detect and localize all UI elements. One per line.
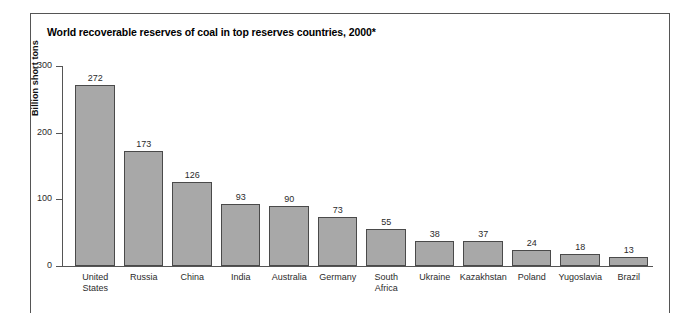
y-tick-label: 300: [37, 60, 52, 70]
bar-group: 90Australia: [265, 66, 314, 266]
bar-series: 272UnitedStates173Russia126China93India9…: [71, 66, 653, 266]
y-tick: 100: [56, 199, 62, 200]
bar-group: 126China: [168, 66, 217, 266]
bar-group: 13Brazil: [605, 66, 654, 266]
bar-value-label: 37: [459, 229, 508, 239]
y-tick: 300: [56, 66, 62, 67]
bar[interactable]: [415, 241, 455, 266]
bar-value-label: 126: [168, 170, 217, 180]
bar-value-label: 73: [314, 205, 363, 215]
bar-group: 55SouthAfrica: [362, 66, 411, 266]
x-axis-category-label-line: States: [67, 283, 124, 294]
y-axis-line: [62, 66, 63, 266]
bar[interactable]: [124, 151, 164, 266]
y-tick-mark: [56, 133, 62, 134]
y-tick-label: 100: [37, 193, 52, 203]
y-tick-mark: [56, 66, 62, 67]
x-axis-category-label: Brazil: [601, 272, 658, 283]
bar-value-label: 13: [605, 245, 654, 255]
bar-value-label: 38: [411, 229, 460, 239]
bar-value-label: 55: [362, 217, 411, 227]
bar-group: 18Yugoslavia: [556, 66, 605, 266]
bar[interactable]: [75, 85, 115, 266]
bar-value-label: 90: [265, 194, 314, 204]
bar-value-label: 93: [217, 192, 266, 202]
bar[interactable]: [609, 257, 649, 266]
bar[interactable]: [221, 204, 261, 266]
bar-value-label: 173: [120, 139, 169, 149]
y-tick-label: 200: [37, 127, 52, 137]
chart-title: World recoverable reserves of coal in to…: [47, 26, 376, 38]
bar-value-label: 272: [71, 73, 120, 83]
bar-group: 24Poland: [508, 66, 557, 266]
bar[interactable]: [318, 217, 358, 266]
x-axis-line: [62, 266, 653, 267]
bar-group: 73Germany: [314, 66, 363, 266]
plot-area: Billion short tons 0100200300 272UnitedS…: [71, 66, 653, 266]
bar-value-label: 24: [508, 238, 557, 248]
bar[interactable]: [512, 250, 552, 266]
y-tick-mark: [56, 199, 62, 200]
bar[interactable]: [560, 254, 600, 266]
y-tick: 200: [56, 133, 62, 134]
bar[interactable]: [463, 241, 503, 266]
bar-group: 173Russia: [120, 66, 169, 266]
bar-group: 37Kazakhstan: [459, 66, 508, 266]
bar[interactable]: [172, 182, 212, 266]
chart-frame: World recoverable reserves of coal in to…: [30, 13, 670, 313]
bar[interactable]: [366, 229, 406, 266]
bar-group: 93India: [217, 66, 266, 266]
bar-group: 272UnitedStates: [71, 66, 120, 266]
x-axis-category-label-line: Brazil: [601, 272, 658, 283]
y-tick: 0: [56, 266, 62, 267]
bar-value-label: 18: [556, 242, 605, 252]
y-tick-mark: [56, 266, 62, 267]
bar[interactable]: [269, 206, 309, 266]
x-axis-category-label-line: Africa: [358, 283, 415, 294]
y-tick-label: 0: [47, 260, 52, 270]
bar-group: 38Ukraine: [411, 66, 460, 266]
